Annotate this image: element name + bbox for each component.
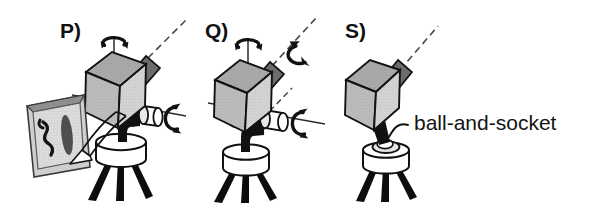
panel-label-Q: Q) [205,19,228,42]
ball-and-socket-label: ball-and-socket [414,111,557,134]
panel-label-P: P) [60,19,81,42]
figure-canvas: P) [0,0,591,216]
camera-mount-figure: P) [0,0,591,216]
picture-frame-P [27,95,90,177]
panel-label-S: S) [345,19,366,42]
